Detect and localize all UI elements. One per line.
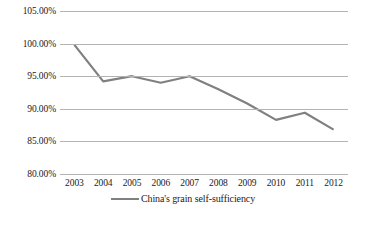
x-tick-label: 2006 [146,177,175,191]
gridline [60,76,348,77]
chart-legend: China's grain self-sufficiency [0,193,366,205]
x-tick-label: 2012 [319,177,348,191]
x-tick-label: 2009 [233,177,262,191]
y-tick-label: 80.00% [0,169,56,179]
x-tick-label: 2004 [89,177,118,191]
plot-area [60,11,348,174]
gridline [60,174,348,175]
gridline [60,141,348,142]
y-axis: 105.00%100.00%95.00%90.00%85.00%80.00% [0,0,56,185]
chart-container: 105.00%100.00%95.00%90.00%85.00%80.00% 2… [0,0,366,225]
x-tick-label: 2010 [262,177,291,191]
legend-label: China's grain self-sufficiency [141,193,255,205]
y-tick-label: 95.00% [0,71,56,81]
x-axis: 2003200420052006200720082009201020112012 [60,177,348,191]
y-tick-label: 90.00% [0,104,56,114]
series-line-group [60,11,348,174]
x-tick-label: 2007 [175,177,204,191]
x-tick-label: 2005 [118,177,147,191]
legend-swatch [111,198,139,201]
gridline [60,44,348,45]
x-tick-label: 2008 [204,177,233,191]
y-tick-label: 100.00% [0,39,56,49]
gridline [60,11,348,12]
y-tick-label: 105.00% [0,6,56,16]
gridline [60,109,348,110]
y-tick-label: 85.00% [0,136,56,146]
x-tick-label: 2011 [290,177,319,191]
series-line [74,45,333,130]
x-tick-label: 2003 [60,177,89,191]
